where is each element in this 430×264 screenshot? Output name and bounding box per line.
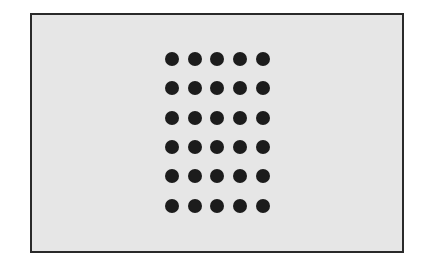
dot <box>165 140 179 154</box>
dot <box>233 111 247 125</box>
dot <box>256 81 270 95</box>
dot <box>233 52 247 66</box>
dot <box>233 199 247 213</box>
dot <box>165 169 179 183</box>
dot <box>188 140 202 154</box>
dot <box>165 81 179 95</box>
dot <box>165 52 179 66</box>
dot <box>256 140 270 154</box>
dot <box>210 111 224 125</box>
dot-grid-frame <box>30 13 404 253</box>
dot <box>233 81 247 95</box>
dot <box>210 199 224 213</box>
dot <box>256 169 270 183</box>
dot <box>233 140 247 154</box>
dot <box>165 111 179 125</box>
dot <box>210 169 224 183</box>
dot <box>188 199 202 213</box>
dot <box>210 81 224 95</box>
dot <box>188 169 202 183</box>
dot <box>210 140 224 154</box>
dot <box>256 52 270 66</box>
dot <box>256 199 270 213</box>
dot <box>188 111 202 125</box>
dot <box>165 199 179 213</box>
dot <box>233 169 247 183</box>
dot <box>188 52 202 66</box>
dot <box>210 52 224 66</box>
dot <box>256 111 270 125</box>
dot <box>188 81 202 95</box>
